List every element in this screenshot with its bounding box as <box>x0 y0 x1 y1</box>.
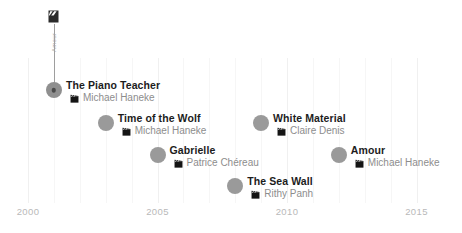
event-director: Claire Denis <box>290 125 344 137</box>
x-axis-tick: 2010 <box>276 206 299 217</box>
x-axis-tick: 2000 <box>17 206 40 217</box>
x-axis-tick: 2015 <box>405 206 428 217</box>
event-title: Amour <box>351 144 440 156</box>
event-director: Michael Haneke <box>368 157 440 169</box>
clapperboard-icon <box>174 159 183 168</box>
event-director-row: Rithy Panh <box>247 188 313 200</box>
event-title: Time of the Wolf <box>118 112 207 124</box>
gridline-minor <box>391 58 392 203</box>
event-director-row: Michael Haneke <box>118 125 207 137</box>
gridline-minor <box>209 58 210 203</box>
event-director: Michael Haneke <box>135 125 207 137</box>
event-dot[interactable] <box>46 82 62 98</box>
gridline-minor <box>365 58 366 203</box>
event-director: Rithy Panh <box>264 188 313 200</box>
event-labels: Time of the WolfMichael Haneke <box>118 112 207 137</box>
event-labels: The Sea WallRithy Panh <box>247 175 313 200</box>
event-title: The Piano Teacher <box>66 79 160 91</box>
clapperboard-icon <box>355 159 364 168</box>
event-director-row: Patrice Chéreau <box>170 157 259 169</box>
clapperboard-icon <box>122 127 131 136</box>
event-dot[interactable] <box>227 178 243 194</box>
event-title: Gabrielle <box>170 144 259 156</box>
gridline-major <box>417 58 418 203</box>
event-director: Michael Haneke <box>83 92 155 104</box>
event-labels: AmourMichael Haneke <box>351 144 440 169</box>
event-dot-center <box>52 88 57 93</box>
x-axis-tick: 2005 <box>146 206 169 217</box>
event-labels: GabriellePatrice Chéreau <box>170 144 259 169</box>
event-dot[interactable] <box>98 115 114 131</box>
event-labels: The Piano TeacherMichael Haneke <box>66 79 160 104</box>
clapperboard-icon <box>277 127 286 136</box>
event-director: Patrice Chéreau <box>187 157 259 169</box>
film-timeline-chart: Amour The Piano TeacherMichael HanekeTim… <box>0 0 462 233</box>
event-labels: White MaterialClaire Denis <box>273 112 346 137</box>
gridline-major <box>28 58 29 203</box>
event-title: White Material <box>273 112 346 124</box>
event-dot[interactable] <box>253 115 269 131</box>
clapperboard-icon <box>48 10 59 23</box>
event-dot[interactable] <box>150 147 166 163</box>
event-director-row: Michael Haneke <box>351 157 440 169</box>
event-director-row: Claire Denis <box>273 125 346 137</box>
event-director-row: Michael Haneke <box>66 92 160 104</box>
event-title: The Sea Wall <box>247 175 313 187</box>
annotation-vertical-label: Amour <box>51 33 57 52</box>
clapperboard-icon <box>251 190 260 199</box>
event-dot[interactable] <box>331 147 347 163</box>
clapperboard-icon <box>70 94 79 103</box>
